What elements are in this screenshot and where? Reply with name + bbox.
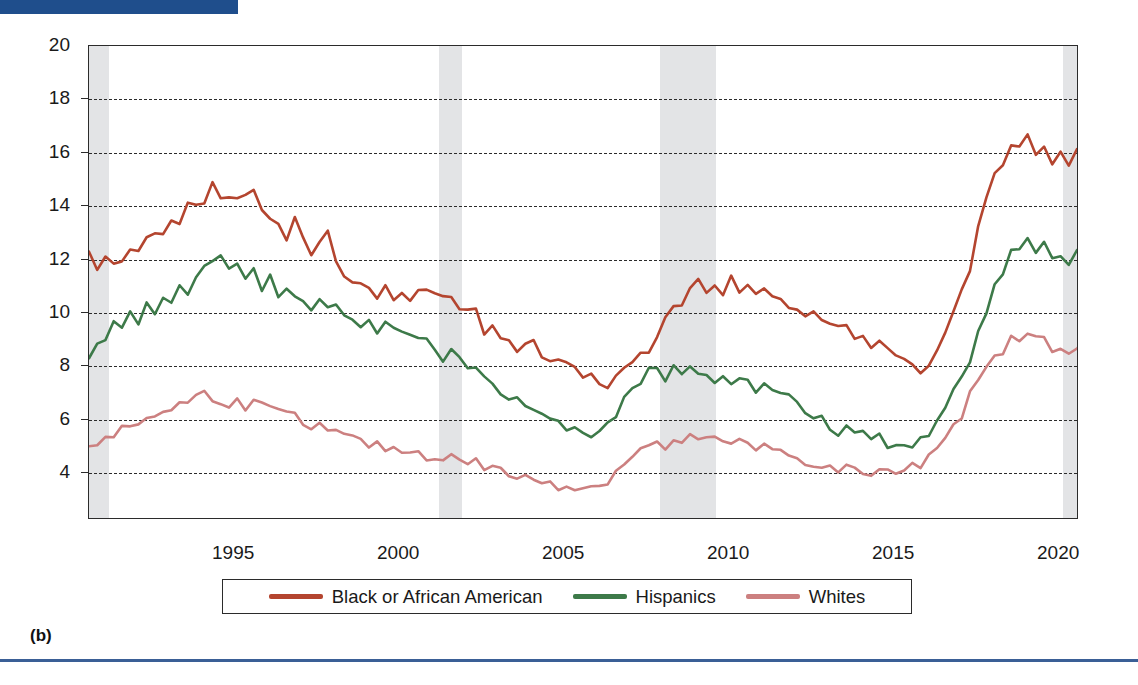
x-tick-label: 2000 xyxy=(353,543,443,562)
y-tick-label: 18 xyxy=(30,88,70,107)
y-tick-mark xyxy=(81,419,88,420)
y-tick-label: 20 xyxy=(30,35,70,54)
legend-label-whites: Whites xyxy=(809,586,866,608)
y-tick-mark xyxy=(81,152,88,153)
legend-swatch-hispanics xyxy=(573,594,627,599)
series-line xyxy=(89,131,1077,437)
y-tick-mark xyxy=(81,472,88,473)
plot-area xyxy=(88,45,1078,519)
series-line xyxy=(89,83,1077,475)
y-tick-label: 10 xyxy=(30,302,70,321)
figure-root: Percent 201816141210864 1995200020052010… xyxy=(0,0,1138,685)
y-tick-label: 4 xyxy=(30,462,70,481)
y-tick-mark xyxy=(81,312,88,313)
legend-item-whites: Whites xyxy=(746,586,866,608)
x-tick-label: 2005 xyxy=(518,543,608,562)
y-tick-label: 16 xyxy=(30,142,70,161)
y-axis-ticks: 201816141210864 xyxy=(36,0,80,600)
series-lines xyxy=(89,46,1077,518)
y-tick-mark xyxy=(81,365,88,366)
y-tick-mark xyxy=(81,98,88,99)
series-line xyxy=(89,184,1077,502)
y-tick-label: 12 xyxy=(30,249,70,268)
legend: Black or African American Hispanics Whit… xyxy=(222,579,912,614)
y-tick-label: 8 xyxy=(30,355,70,374)
legend-label-hispanics: Hispanics xyxy=(636,586,716,608)
y-tick-mark xyxy=(81,205,88,206)
legend-item-hispanics: Hispanics xyxy=(573,586,716,608)
plot-inner xyxy=(89,46,1077,518)
x-tick-label: 2020 xyxy=(1013,543,1103,562)
y-tick-label: 6 xyxy=(30,409,70,428)
legend-swatch-whites xyxy=(746,594,800,599)
x-axis-ticks: 199520002005201020152020 xyxy=(0,519,1138,579)
legend-item-black: Black or African American xyxy=(269,586,543,608)
x-tick-label: 2015 xyxy=(848,543,938,562)
panel-label: (b) xyxy=(30,626,52,646)
y-tick-mark xyxy=(81,259,88,260)
y-tick-label: 14 xyxy=(30,195,70,214)
footer-rule xyxy=(0,659,1138,662)
x-tick-label: 2010 xyxy=(683,543,773,562)
legend-label-black: Black or African American xyxy=(332,586,543,608)
x-tick-label: 1995 xyxy=(188,543,278,562)
legend-swatch-black xyxy=(269,594,323,599)
